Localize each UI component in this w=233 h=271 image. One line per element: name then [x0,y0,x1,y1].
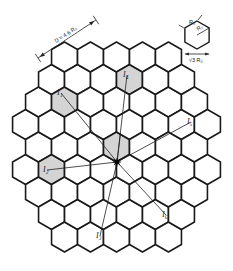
arrow-head-icon [40,52,45,56]
interferer-label-i4: I₄ [122,70,129,79]
distance-tick [35,54,40,62]
interferer-label-i2: I₂ [42,165,49,174]
cell [194,110,220,140]
interferer-label-i5: I₅ [186,117,193,126]
interferer-label-i1: I₁ [56,88,63,97]
legend-edge-arrow [198,15,202,20]
legend-radius-label: R₀ [189,19,195,25]
legend-width-label: √3 R₀ [189,57,203,63]
hex-grid [13,42,221,252]
arrow-right-icon [205,53,209,56]
star-icon [112,157,122,167]
arrow-head-icon [89,21,94,25]
cell [194,155,220,185]
cellular-hex-diagram: I₁I₂I₃I₄I₅I₆ D = 4.6 R₀ R₀R₀√3 R₀ [0,0,233,271]
interferer-label-i3: I₃ [95,231,102,240]
legend-hexagon: R₀R₀√3 R₀ [179,15,209,63]
mobile-star-shape [112,157,122,167]
arrow-left-icon [185,53,189,56]
legend-edge-arrow [179,25,184,28]
distance-tick [93,16,98,24]
interferer-label-i6: I₆ [161,210,168,219]
